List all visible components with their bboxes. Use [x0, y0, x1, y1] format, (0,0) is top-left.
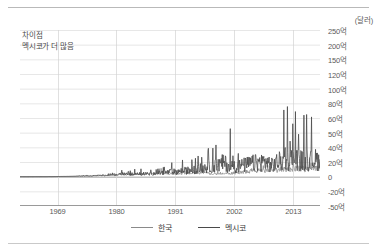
x-axis-tick: 1980 [108, 207, 124, 216]
x-axis-tick: 1969 [50, 207, 66, 216]
y-axis-unit-label: (달러) [355, 14, 373, 25]
x-axis-tick: 1991 [167, 207, 183, 216]
y-axis-tick: 50억 [328, 127, 343, 138]
legend-item-korea[interactable]: 한국 [131, 222, 172, 233]
y-axis-tick: 200억 [328, 39, 347, 50]
y-axis-tick: -50억 [328, 201, 345, 212]
series-line-mexico [20, 107, 320, 177]
y-axis-tick: 250억 [328, 25, 347, 36]
y-axis-tick: 20억 [328, 157, 343, 168]
annotation-line-2: 멕시코가 더 많음 [22, 42, 73, 53]
legend-label-mexico: 멕시코 [225, 222, 245, 233]
legend-line-mexico [198, 227, 220, 228]
x-axis-labels: 19691980199120022013 [20, 207, 320, 221]
annotation-line-1: 차이점 [22, 31, 73, 42]
chart-canvas [20, 30, 320, 206]
chart-legend: 한국 멕시코 [0, 222, 377, 233]
chart-annotation: 차이점 멕시코가 더 많음 [22, 31, 73, 52]
legend-item-mexico[interactable]: 멕시코 [198, 222, 245, 233]
bottom-divider [8, 243, 369, 244]
y-axis-tick: 40억 [328, 142, 343, 153]
legend-label-korea: 한국 [158, 222, 172, 233]
y-axis-tick: 80억 [328, 98, 343, 109]
y-axis-tick: 100억 [328, 83, 347, 94]
plot-area [20, 30, 320, 206]
legend-line-korea [131, 227, 153, 228]
chart-svg [20, 30, 320, 206]
x-axis-tick: 2013 [285, 207, 301, 216]
y-axis-tick: -20억 [328, 186, 345, 197]
chart-card: (달러) 차이점 멕시코가 더 많음 250억200억150억120억100억8… [0, 0, 377, 250]
top-divider [8, 7, 369, 8]
y-axis-tick: 0 [328, 172, 332, 181]
x-axis-tick: 2002 [226, 207, 242, 216]
y-axis-labels: 250억200억150억120억100억80억60억50억40억20억0-20억… [322, 30, 376, 206]
y-axis-tick: 120억 [328, 69, 347, 80]
y-axis-tick: 60억 [328, 113, 343, 124]
y-axis-tick: 150억 [328, 54, 347, 65]
